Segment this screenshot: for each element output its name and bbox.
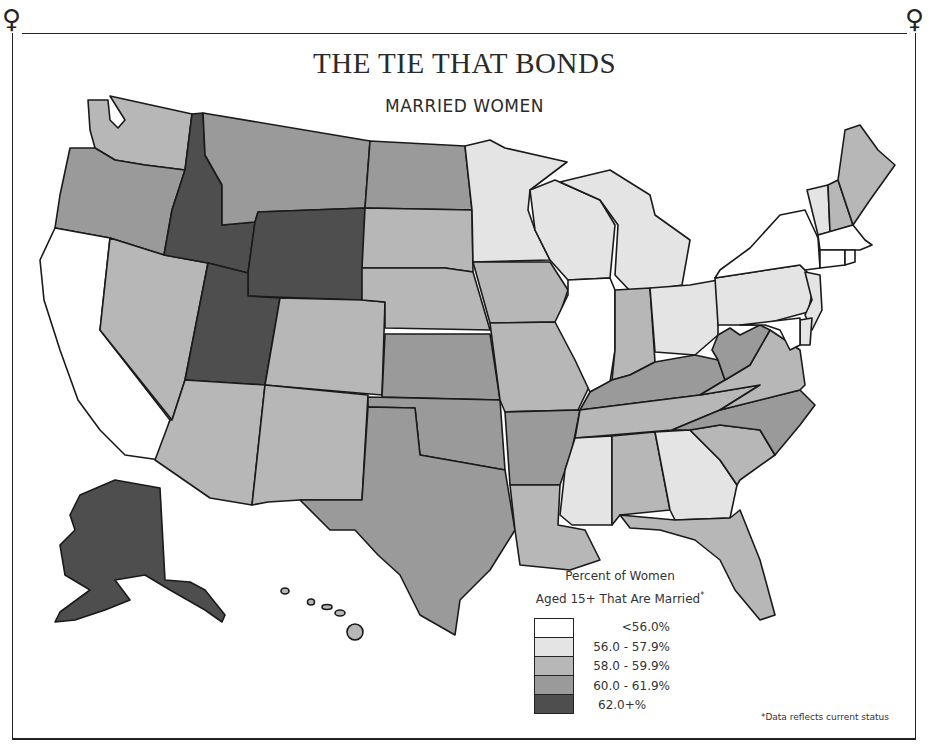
- legend-label: 58.0 - 59.9%: [590, 657, 670, 677]
- state-hi: [281, 588, 363, 640]
- legend-label: 60.0 - 61.9%: [590, 677, 670, 697]
- legend-swatch-58-59: [535, 657, 573, 676]
- state-ri: [845, 250, 855, 265]
- state-nm: [252, 385, 368, 505]
- legend-label: 56.0 - 57.9%: [590, 638, 670, 658]
- legend-label: 62.0+%: [590, 696, 670, 716]
- legend-swatches: [534, 618, 574, 714]
- state-ny: [715, 210, 820, 278]
- state-oh: [650, 280, 718, 355]
- state-ak: [55, 480, 225, 622]
- us-choropleth-map: [0, 0, 929, 746]
- legend-label: <56.0%: [590, 618, 670, 638]
- state-ks: [382, 334, 500, 400]
- legend-swatch-56-57: [535, 638, 573, 657]
- legend-title: Percent of Women Aged 15+ That Are Marri…: [520, 566, 720, 609]
- state-co: [265, 298, 385, 395]
- state-ct: [820, 250, 845, 268]
- state-wy: [248, 208, 365, 300]
- state-de: [800, 318, 812, 345]
- legend-swatch-lt-56: [535, 619, 573, 638]
- legend-swatch-60-61: [535, 676, 573, 695]
- legend-labels: <56.0% 56.0 - 57.9% 58.0 - 59.9% 60.0 - …: [590, 618, 670, 716]
- footnote: *Data reflects current status: [761, 712, 889, 722]
- legend-swatch-62-plus: [535, 695, 573, 713]
- state-ia: [473, 262, 568, 323]
- state-nd: [365, 141, 472, 210]
- state-sd: [362, 208, 473, 272]
